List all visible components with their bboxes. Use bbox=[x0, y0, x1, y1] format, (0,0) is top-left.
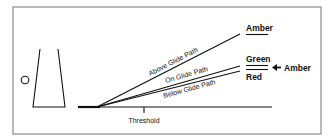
on-glide-path-line bbox=[97, 66, 240, 107]
glide-path-diagram: Above Glide Path On Glide Path Below Gli… bbox=[0, 0, 333, 140]
light-source-icon bbox=[21, 76, 29, 84]
threshold-label: Threshold bbox=[128, 117, 159, 124]
green-label: Green bbox=[246, 54, 271, 64]
arrow-left-icon bbox=[272, 64, 281, 71]
light-beam-housing-icon bbox=[33, 49, 65, 107]
amber-side-label: Amber bbox=[284, 63, 312, 73]
diagram-frame bbox=[13, 7, 321, 134]
red-label: Red bbox=[246, 72, 262, 82]
amber-top-label: Amber bbox=[246, 23, 274, 33]
